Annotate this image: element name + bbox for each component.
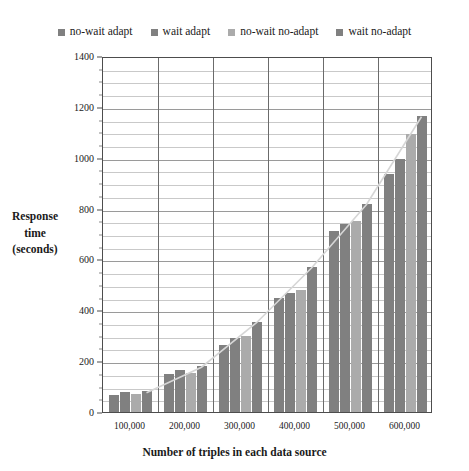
bar	[351, 221, 361, 412]
legend-item: no-wait adapt	[58, 26, 133, 38]
bar	[131, 394, 141, 412]
y-tick-label: 1000	[74, 154, 94, 164]
bar	[395, 159, 405, 412]
x-tick-label: 500,000	[334, 421, 365, 431]
bar	[186, 373, 196, 412]
bar	[164, 374, 174, 412]
bar	[109, 395, 119, 412]
x-tick-label: 300,000	[224, 421, 255, 431]
bar	[296, 290, 306, 412]
x-tick-label: 200,000	[169, 421, 200, 431]
bar	[285, 293, 295, 413]
bar	[406, 134, 416, 412]
bar-group	[103, 58, 158, 412]
bar	[417, 116, 427, 412]
x-axis: 100,000200,000300,000400,000500,000600,0…	[102, 415, 432, 437]
bar	[197, 366, 207, 412]
y-axis-title: Responsetime(seconds)	[2, 208, 68, 258]
y-tick-label: 200	[79, 357, 94, 367]
y-tick-label: 1400	[74, 52, 94, 62]
legend-label: no-wait no-adapt	[240, 26, 318, 38]
legend-label: wait no-adapt	[348, 26, 411, 38]
y-axis-title-line: Response	[2, 208, 68, 225]
y-axis-title-line: time	[2, 225, 68, 242]
y-tick-label: 400	[79, 306, 94, 316]
bar	[241, 336, 251, 412]
bar-group	[158, 58, 213, 412]
y-tick-label: 1200	[74, 103, 94, 113]
legend-label: wait adapt	[163, 26, 211, 38]
bar	[142, 391, 152, 412]
legend-item: no-wait no-adapt	[228, 26, 318, 38]
bar-group	[378, 58, 433, 412]
bar	[120, 392, 130, 412]
y-axis-title-line: (seconds)	[2, 241, 68, 258]
bar	[274, 298, 284, 412]
legend-swatch-icon	[58, 29, 65, 36]
chart-legend: no-wait adaptwait adaptno-wait no-adaptw…	[0, 24, 469, 40]
x-tick-label: 100,000	[114, 421, 145, 431]
legend-swatch-icon	[228, 29, 235, 36]
bar	[340, 224, 350, 412]
plot-area	[102, 57, 432, 413]
legend-swatch-icon	[151, 29, 158, 36]
bar	[252, 322, 262, 412]
bar	[175, 370, 185, 412]
bar	[307, 267, 317, 412]
y-tick-label: 600	[79, 255, 94, 265]
legend-label: no-wait adapt	[70, 26, 133, 38]
y-tick-label: 800	[79, 205, 94, 215]
legend-swatch-icon	[336, 29, 343, 36]
bar	[230, 338, 240, 412]
bar	[329, 231, 339, 412]
bar	[362, 204, 372, 413]
legend-item: wait adapt	[151, 26, 211, 38]
y-tick-label: 0	[89, 408, 94, 418]
bar	[219, 345, 229, 412]
bar-group	[213, 58, 268, 412]
x-tick-label: 600,000	[389, 421, 420, 431]
plot-frame	[102, 57, 432, 413]
bar-group	[323, 58, 378, 412]
bar-group	[268, 58, 323, 412]
x-tick-label: 400,000	[279, 421, 310, 431]
bar	[384, 174, 394, 412]
legend-item: wait no-adapt	[336, 26, 411, 38]
x-axis-title: Number of triples in each data source	[0, 446, 469, 458]
